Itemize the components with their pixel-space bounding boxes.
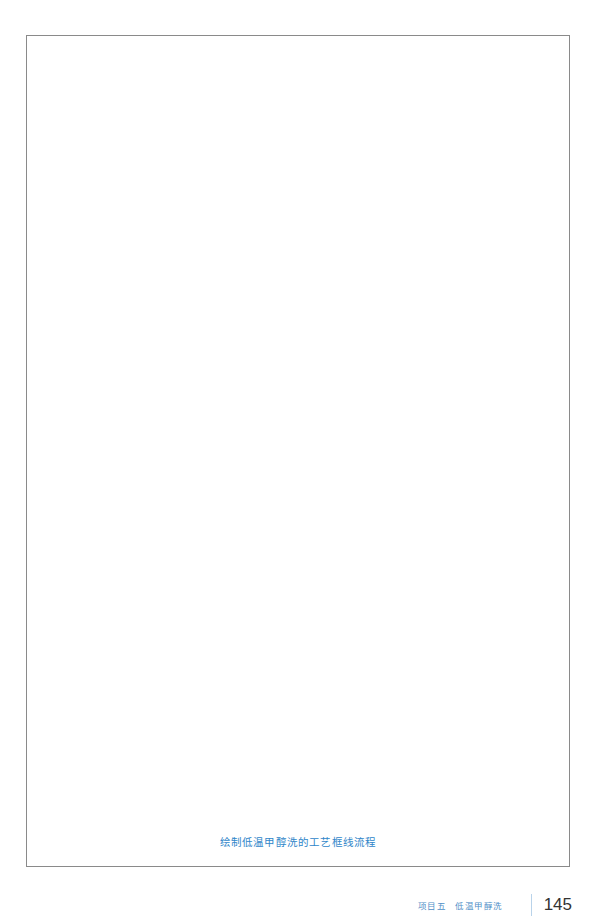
- drawing-frame: 绘制低温甲醇洗的工艺框线流程: [26, 35, 570, 867]
- figure-caption: 绘制低温甲醇洗的工艺框线流程: [27, 834, 569, 849]
- page-number: 145: [544, 895, 572, 915]
- footer-section-title: 低温甲醇洗: [455, 899, 503, 911]
- footer-project-label: 项目五: [418, 899, 447, 911]
- page-footer: 项目五 低温甲醇洗 145: [418, 893, 572, 917]
- footer-divider: [531, 894, 532, 916]
- running-header: 项目五 低温甲醇洗: [418, 899, 503, 911]
